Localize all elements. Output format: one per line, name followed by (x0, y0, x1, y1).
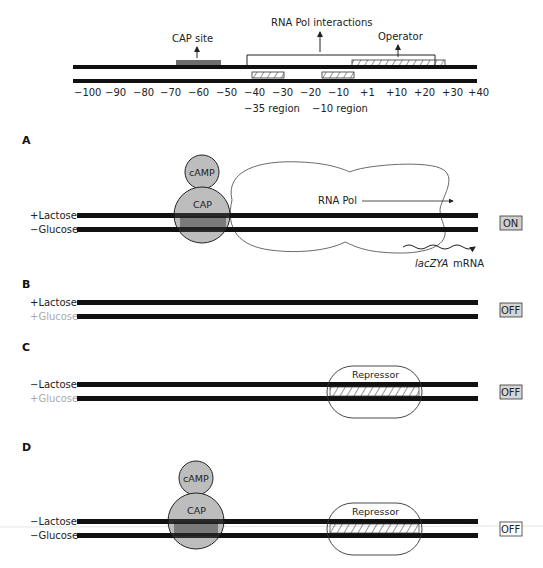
rna-pol-shape (230, 162, 449, 253)
rna-pol-label: RNA Pol (318, 195, 357, 206)
divider (0, 526, 543, 527)
operator-box (330, 524, 419, 533)
repressor-label: Repressor (352, 506, 399, 517)
dna-over-cap (174, 213, 230, 218)
panel-a: A +Lactose −Glucose RNA Pol cAMP CAP lac… (22, 134, 522, 269)
lactose-condition: +Lactose (30, 210, 77, 221)
tick-label: −90 (105, 87, 126, 98)
position-axis: −100 −90 −80 −70 −60 −50 −40 −30 −20 −10… (74, 87, 489, 98)
dna-over-cap (168, 519, 224, 524)
minus10-box (322, 72, 354, 78)
cap-label: CAP (193, 199, 212, 210)
minus35-region-label: −35 region (244, 103, 300, 114)
glucose-condition: −Glucose (30, 224, 78, 235)
tick-label: +10 (386, 87, 407, 98)
cap-label: CAP (187, 505, 206, 516)
operator-box (330, 387, 419, 396)
tick-label: −50 (216, 87, 237, 98)
glucose-condition: +Glucose (30, 393, 78, 404)
dna-strand-top (77, 519, 478, 524)
mrna-gene-label: lacZYA (415, 258, 449, 269)
dna-strand-bottom (77, 396, 478, 401)
dna-strand-top (77, 213, 478, 218)
cap-site-label: CAP site (172, 33, 213, 44)
tick-label: −30 (272, 87, 293, 98)
tick-label: −100 (74, 87, 101, 98)
glucose-condition: −Glucose (30, 530, 78, 541)
dna-strand-top (73, 65, 477, 69)
dna-strand-top (77, 300, 478, 305)
dna-strand-bottom (77, 227, 478, 232)
mrna-label: mRNA (453, 258, 484, 269)
tick-label: −60 (188, 87, 209, 98)
mrna-wave-icon (403, 245, 475, 249)
state-label: OFF (501, 387, 521, 398)
state-label: ON (503, 218, 518, 229)
state-label: OFF (501, 524, 521, 535)
dna-strand-top (77, 382, 478, 387)
dna-strand-bottom (73, 79, 477, 83)
dna-strand-bottom (77, 314, 478, 319)
tick-label: −10 (328, 87, 349, 98)
camp-label: cAMP (183, 473, 209, 484)
panel-letter-d: D (22, 441, 31, 454)
lactose-condition: +Lactose (30, 297, 77, 308)
tick-label: +30 (442, 87, 463, 98)
lactose-condition: −Lactose (30, 516, 77, 527)
state-label: OFF (501, 305, 521, 316)
rna-pol-interactions-label: RNA Pol interactions (271, 17, 373, 28)
tick-label: −70 (160, 87, 181, 98)
panel-d: D −Lactose −Glucose cAMP CAP Repressor O… (0, 441, 543, 555)
dna-over-cap (174, 227, 230, 232)
dna-over-cap (168, 533, 224, 538)
panel-c: C −Lactose +Glucose Repressor OFF (22, 341, 522, 418)
minus35-box (252, 72, 284, 78)
operator-label: Operator (378, 31, 424, 42)
promoter-map: CAP site RNA Pol interactions Operator −… (73, 17, 489, 114)
lactose-condition: −Lactose (30, 379, 77, 390)
panel-b: B +Lactose +Glucose OFF (22, 278, 522, 322)
dna-strand-bottom (77, 533, 478, 538)
panel-letter-b: B (22, 278, 30, 291)
tick-label: −40 (244, 87, 265, 98)
camp-label: cAMP (189, 167, 215, 178)
glucose-condition: +Glucose (30, 311, 78, 322)
tick-label: +1 (360, 87, 375, 98)
panel-letter-c: C (22, 341, 30, 354)
tick-label: +20 (414, 87, 435, 98)
panel-letter-a: A (22, 134, 31, 147)
tick-label: −80 (133, 87, 154, 98)
tick-label: −20 (300, 87, 321, 98)
tick-label: +40 (468, 87, 489, 98)
minus10-region-label: −10 region (312, 103, 368, 114)
repressor-label: Repressor (352, 369, 399, 380)
